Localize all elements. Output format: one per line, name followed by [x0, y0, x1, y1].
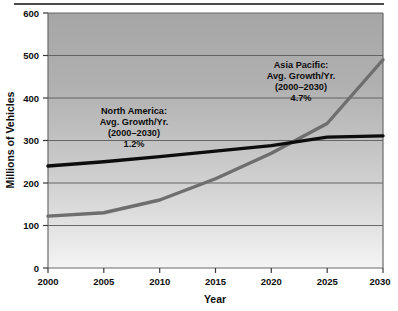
asia-pacific-annotation-line-4: 4.7% — [291, 93, 312, 103]
y-tick-label-300: 300 — [23, 135, 39, 146]
y-tick-label-200: 200 — [23, 178, 39, 189]
x-tick-label-2005: 2005 — [93, 276, 115, 287]
x-tick-label-2020: 2020 — [261, 276, 282, 287]
asia-pacific-annotation-line-1: Asia Pacific: — [274, 60, 329, 70]
y-tick-label-600: 600 — [23, 8, 39, 19]
y-tick-label-0: 0 — [34, 263, 39, 274]
x-tick-label-2010: 2010 — [149, 276, 170, 287]
asia-pacific-annotation-line-3: (2000–2030) — [275, 82, 327, 92]
y-tick-label-100: 100 — [23, 220, 39, 231]
y-tick-label-500: 500 — [23, 50, 39, 61]
x-tick-marks — [48, 268, 383, 273]
x-tick-label-2015: 2015 — [205, 276, 227, 287]
x-axis-title: Year — [204, 293, 226, 305]
x-tick-label-2000: 2000 — [37, 276, 58, 287]
x-tick-label-2030: 2030 — [369, 276, 390, 287]
chart-plot-wrapper: 0 100 200 300 400 500 600 2000 2005 2010… — [0, 0, 398, 311]
north-america-annotation-line-2: Avg. Growth/Yr. — [100, 117, 169, 127]
chart-figure: 0 100 200 300 400 500 600 2000 2005 2010… — [0, 0, 398, 311]
asia-pacific-annotation-line-2: Avg. Growth/Yr. — [267, 71, 336, 81]
y-tick-label-400: 400 — [23, 93, 39, 104]
line-chart-svg: 0 100 200 300 400 500 600 2000 2005 2010… — [0, 0, 398, 311]
north-america-annotation-line-3: (2000–2030) — [108, 128, 160, 138]
x-tick-label-2025: 2025 — [317, 276, 339, 287]
y-axis-title: Millions of Vehicles — [4, 91, 16, 188]
north-america-annotation-line-1: North America: — [101, 106, 167, 116]
y-tick-marks — [43, 13, 48, 268]
north-america-annotation-line-4: 1.2% — [124, 139, 145, 149]
